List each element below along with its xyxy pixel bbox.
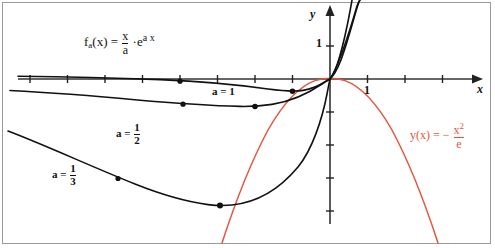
marker-a3-min [217,202,223,208]
x-axis [18,75,483,84]
y-axis-tick-label-1: 1 [316,37,322,49]
function-formula: fa(x) = x a ·ea x [84,30,155,56]
formula-numerator: x [122,30,128,43]
curve-a-equals-1 [18,0,352,91]
curve-label-a2-denominator: 2 [134,134,140,147]
marker-a1-min [290,88,296,94]
x-axis-tick-label-1: 1 [364,84,370,96]
parabola-label-num-exponent: 2 [460,121,465,131]
curve-label-a3-denominator: 3 [70,175,76,188]
formula-args: (x) = [92,34,118,49]
curve-label-a-equals-1: a = 1 [212,86,235,97]
marker-a3-p1 [115,176,120,181]
curve-label-a2-numerator: 1 [134,122,140,134]
marker-a2-min [252,104,258,110]
parabola-label-fraction: x2 e [454,122,465,150]
parabola-label-lhs: y(x) = [410,128,443,142]
parabola-label-denominator: e [454,137,465,151]
marker-a2-p1 [180,102,185,107]
parabola-function-label: y(x) = − x2 e [410,122,465,150]
marker-a1-p1 [177,79,182,84]
curve-label-a3-prefix: a = [52,168,69,180]
parabola-label-minus: − [443,128,450,142]
curve-label-a1-value: 1 [229,85,235,97]
formula-e-exponent: a x [143,32,155,43]
curve-label-a3-fraction: 1 3 [70,163,76,187]
x-axis-label: x [477,83,483,95]
curve-a-equals-one-half [10,0,360,106]
curve-label-a3-numerator: 1 [70,163,76,175]
parabola-label-numerator: x2 [454,122,465,137]
curve-marker-dots [115,79,295,209]
y-axis-label: y [310,8,315,20]
curve-label-a-equals-one-half: a = 1 2 [116,122,141,146]
formula-fraction: x a [122,30,128,56]
figure-canvas: fa(x) = x a ·ea x a = 1 a = 1 2 a = 1 3 … [0,0,495,248]
curve-label-a-equals-one-third: a = 1 3 [52,163,77,187]
curve-label-a2-fraction: 1 2 [134,122,140,146]
curve-label-a1-prefix: a = [212,85,229,97]
curve-label-a2-prefix: a = [116,127,133,139]
y-axis [326,5,335,224]
formula-denominator: a [122,43,128,57]
